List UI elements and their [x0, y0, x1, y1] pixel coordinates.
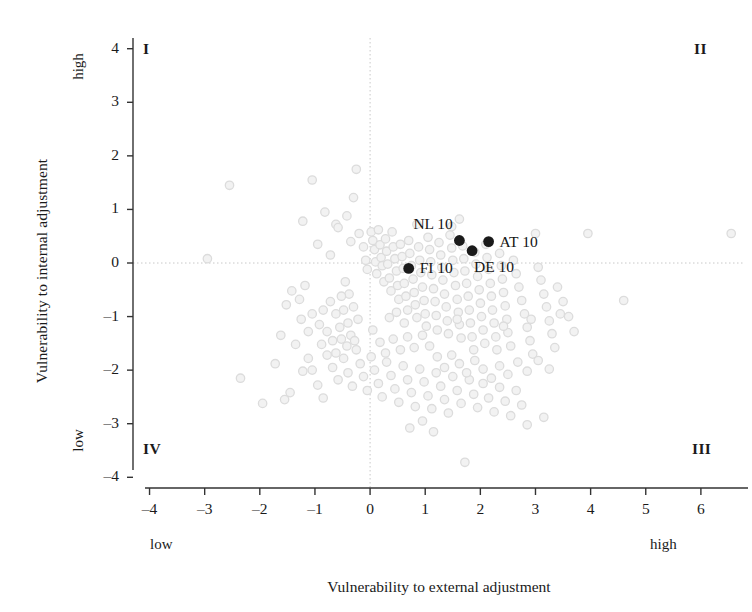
- y-tick-label: 3: [85, 93, 119, 109]
- data-point: [363, 265, 371, 273]
- data-point: [470, 390, 478, 398]
- data-point: [465, 306, 473, 314]
- data-point: [464, 292, 472, 300]
- data-point: [334, 376, 342, 384]
- data-point: [420, 378, 428, 386]
- y-tick-label: 4: [85, 40, 119, 56]
- y-tick-label: 0: [85, 254, 119, 270]
- data-point: [432, 311, 440, 319]
- data-point: [584, 229, 592, 237]
- data-point: [435, 238, 443, 246]
- data-point: [440, 395, 448, 403]
- data-point: [515, 283, 523, 291]
- data-point: [433, 326, 441, 334]
- data-point: [225, 181, 233, 189]
- data-point: [399, 362, 407, 370]
- data-point: [407, 388, 415, 396]
- data-point: [291, 340, 299, 348]
- data-point: [319, 306, 327, 314]
- data-point: [299, 367, 307, 375]
- data-point: [304, 327, 312, 335]
- data-point: [409, 275, 417, 283]
- data-point: [477, 312, 485, 320]
- data-point: [350, 337, 358, 345]
- quadrant-label-ii: II: [694, 40, 707, 58]
- quadrant-label-iii: III: [692, 440, 711, 458]
- data-point: [564, 312, 572, 320]
- data-point: [461, 458, 469, 466]
- data-point: [490, 408, 498, 416]
- data-point: [542, 303, 550, 311]
- data-point: [540, 290, 548, 298]
- data-point: [545, 365, 553, 373]
- quadrant-label-i: I: [143, 40, 149, 58]
- data-point: [479, 379, 487, 387]
- data-point: [462, 369, 470, 377]
- x-tick-label: 1: [408, 501, 442, 517]
- x-tick-label: 0: [353, 501, 387, 517]
- data-point: [381, 235, 389, 243]
- x-tick-label: 6: [684, 501, 718, 517]
- data-point: [475, 286, 483, 294]
- data-point: [534, 263, 542, 271]
- y-tick-label: 1: [85, 200, 119, 216]
- data-point: [443, 317, 451, 325]
- data-point: [418, 331, 426, 339]
- data-point: [470, 346, 478, 354]
- data-point: [349, 193, 357, 201]
- data-point: [347, 237, 355, 245]
- data-point: [455, 360, 463, 368]
- data-point: [403, 333, 411, 341]
- data-point: [545, 317, 553, 325]
- data-point: [304, 354, 312, 362]
- data-point: [369, 326, 377, 334]
- data-point: [384, 260, 392, 268]
- data-point: [488, 306, 496, 314]
- data-point: [420, 296, 428, 304]
- data-point: [299, 217, 307, 225]
- data-point: [405, 236, 413, 244]
- x-tick-label: 5: [629, 501, 663, 517]
- x-tick-label: 4: [574, 501, 608, 517]
- highlighted-data-point[interactable]: [403, 263, 414, 274]
- data-point: [431, 297, 439, 305]
- highlighted-data-point[interactable]: [483, 236, 494, 247]
- x-tick-label: –1: [298, 501, 332, 517]
- data-point: [416, 365, 424, 373]
- data-point: [352, 346, 360, 354]
- scatter-chart: Vulnerability to internal adjustment hig…: [0, 0, 752, 612]
- data-point: [440, 363, 448, 371]
- data-point: [301, 281, 309, 289]
- data-point: [418, 283, 426, 291]
- data-point: [444, 409, 452, 417]
- data-point: [512, 386, 520, 394]
- data-point: [487, 292, 495, 300]
- data-point: [444, 330, 452, 338]
- y-axis-high-label: high: [70, 37, 87, 97]
- data-point: [396, 240, 404, 248]
- data-point: [317, 340, 325, 348]
- data-point: [328, 363, 336, 371]
- data-point: [323, 351, 331, 359]
- data-point-label: DE 10: [474, 258, 514, 276]
- data-point: [476, 299, 484, 307]
- data-point: [499, 288, 507, 296]
- data-point: [343, 342, 351, 350]
- data-point: [453, 315, 461, 323]
- data-point: [363, 386, 371, 394]
- data-point: [442, 303, 450, 311]
- data-point: [457, 399, 465, 407]
- data-point: [518, 401, 526, 409]
- data-point: [486, 279, 494, 287]
- x-tick-label: 2: [463, 501, 497, 517]
- data-point: [381, 349, 389, 357]
- highlighted-data-point[interactable]: [454, 235, 465, 246]
- data-point: [428, 405, 436, 413]
- data-point: [328, 337, 336, 345]
- data-point: [461, 267, 469, 275]
- x-axis-high-label: high: [650, 536, 677, 553]
- data-point: [395, 398, 403, 406]
- data-point: [411, 402, 419, 410]
- data-point: [406, 424, 414, 432]
- highlighted-data-point[interactable]: [467, 245, 478, 256]
